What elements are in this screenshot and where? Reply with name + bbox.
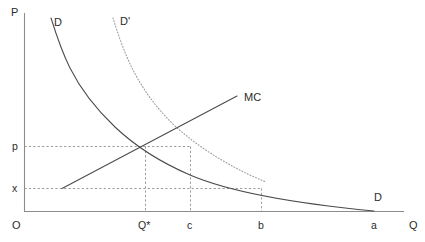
- chart-canvas: [0, 0, 425, 242]
- x-tick-label-qstar: Q*: [138, 220, 150, 231]
- y-axis-label: P: [11, 7, 18, 18]
- curve-label-d-end: D: [374, 192, 382, 203]
- x-tick-label-a: a: [371, 220, 377, 231]
- x-tick-label-b: b: [258, 220, 264, 231]
- curve-label-mc: MC: [244, 92, 261, 103]
- x-tick-label-c: c: [187, 220, 192, 231]
- curve-label-d-prime: D': [120, 16, 130, 27]
- axes-group: [24, 13, 404, 212]
- x-axis-label: Q: [409, 220, 418, 231]
- y-tick-label-p: p: [12, 141, 18, 152]
- economics-supply-demand-chart: P Q O p x Q* c b a D D' MC D: [0, 0, 425, 242]
- curve-label-d-top: D: [54, 17, 62, 28]
- demand-curve-d: [51, 18, 374, 211]
- origin-label: O: [12, 220, 21, 231]
- y-tick-label-x: x: [12, 183, 17, 194]
- marginal-cost-curve-mc: [62, 96, 237, 189]
- guide-lines-group: [25, 147, 262, 212]
